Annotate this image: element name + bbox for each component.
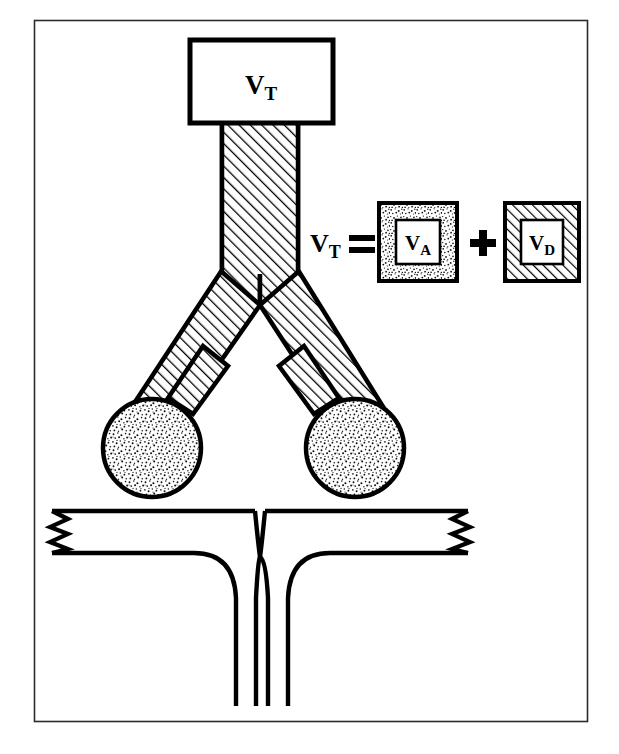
va-sub-glyph: A bbox=[420, 242, 431, 258]
airway-trachea bbox=[222, 124, 298, 274]
va-main-glyph: V bbox=[405, 231, 420, 255]
vt-main-glyph: V bbox=[245, 70, 265, 100]
vd-sub-glyph: D bbox=[544, 242, 555, 258]
figure-root: VT VT = VA bbox=[0, 0, 619, 754]
lung-diagram-svg: VT VT = VA bbox=[0, 0, 619, 754]
tidal-volume-box: VT bbox=[190, 40, 333, 123]
alveolar-volume-term: VA bbox=[379, 203, 457, 281]
vd-main-glyph: V bbox=[529, 231, 544, 255]
deadspace-volume-term: VD bbox=[505, 203, 579, 281]
right-alveolus bbox=[306, 399, 404, 497]
vt-sub-glyph: T bbox=[264, 83, 277, 104]
left-alveolus bbox=[103, 399, 201, 497]
eq-vt-main-glyph: V bbox=[310, 229, 329, 258]
cropped-caption-text bbox=[36, 0, 296, 8]
eq-vt-sub-glyph: T bbox=[329, 242, 341, 262]
